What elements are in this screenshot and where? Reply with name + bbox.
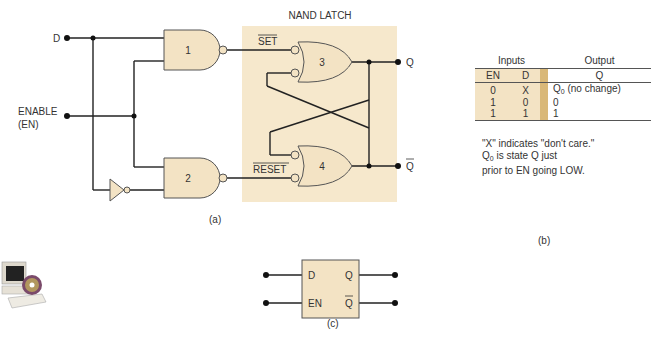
svg-text:3: 3 <box>319 57 325 68</box>
col-q: Q <box>548 69 651 83</box>
output-q-label: Q <box>406 57 414 68</box>
pin-d-label: D <box>308 270 315 281</box>
inverter-gate <box>110 179 130 201</box>
table-group-header: Inputs Output <box>475 52 651 68</box>
table-row: 1 1 1 <box>475 108 651 121</box>
computer-cd-icon <box>0 258 48 310</box>
note-q0: Q0 is state Q just <box>482 150 594 165</box>
pin-q-label: Q <box>345 270 353 281</box>
caption-b: (b) <box>538 235 550 246</box>
nand-gate-2: 2 <box>164 158 227 198</box>
note-dont-care: "X" indicates "don't care." <box>482 138 594 150</box>
svg-text:2: 2 <box>185 173 191 184</box>
latch-title: NAND LATCH <box>288 10 351 21</box>
nand-gate-1: 1 <box>164 30 227 70</box>
truth-table-notes: "X" indicates "don't care." Q0 is state … <box>482 138 594 177</box>
column-header-row: EN D Q <box>475 69 651 83</box>
output-qbar-label: Q <box>406 161 414 172</box>
pin-en-label: EN <box>308 298 322 309</box>
pin-qbar-label: Q <box>345 298 353 309</box>
svg-text:1: 1 <box>185 45 191 56</box>
truth-table: Inputs Output EN D Q 0 X Q0 (no change) … <box>475 52 651 121</box>
col-d: D <box>511 69 540 83</box>
d-latch-block-symbol: D EN Q Q <box>263 260 398 318</box>
truth-table-grid: EN D Q 0 X Q0 (no change) 1 0 0 1 1 1 <box>475 68 651 121</box>
reset-bar-label: RESET <box>253 164 286 175</box>
input-enable-label: ENABLE <box>18 106 58 117</box>
inputs-header: Inputs <box>475 55 548 66</box>
output-header: Output <box>548 55 651 66</box>
table-row: 1 0 0 <box>475 97 651 108</box>
svg-text:4: 4 <box>319 161 325 172</box>
input-en-label: (EN) <box>18 119 39 130</box>
input-d-label: D <box>53 33 60 44</box>
caption-c: (c) <box>327 318 339 329</box>
set-bar-label: SET <box>258 36 277 47</box>
note-prior: prior to EN going LOW. <box>482 165 594 177</box>
caption-a: (a) <box>209 214 221 225</box>
col-en: EN <box>475 69 511 83</box>
table-row: 0 X Q0 (no change) <box>475 83 651 98</box>
